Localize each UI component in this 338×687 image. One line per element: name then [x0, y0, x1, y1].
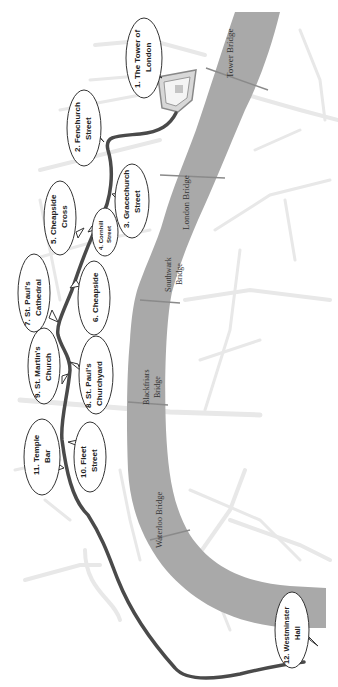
stop-1-bubble[interactable]: 1. The Tower of London	[126, 18, 162, 98]
stop-12-label-2: Hall	[293, 626, 302, 640]
bridge-label-waterloo: Waterloo Bridge	[154, 492, 164, 548]
stop-1-label-2: London	[144, 43, 153, 72]
stop-10-label-2: Street	[90, 449, 99, 472]
stop-4-label-2: Street	[106, 226, 112, 243]
stop-11-bubble[interactable]: 11. Temple Bar	[24, 419, 64, 495]
stop-5-label-2: Cross	[60, 205, 69, 228]
stop-9-label-1: 9. St. Martin's	[33, 346, 42, 398]
stop-7-label-1: 7. St. Paul's	[23, 281, 32, 326]
bridge-label-southwark-2: Bridge	[175, 263, 184, 285]
bridge-label-tower: Tower Bridge	[225, 28, 235, 78]
stop-6-bubble[interactable]: 6. Cheapside	[70, 261, 110, 335]
bridge-label-southwark-1: Southwark	[164, 257, 173, 292]
stop-3-label-1: 3. Gracechurch	[122, 170, 131, 228]
stop-9-label-2: Church	[44, 353, 53, 381]
bridge-label-blackfriars-2: Bridge	[153, 376, 162, 398]
stop-2-label-1: 2. Fenchurch	[73, 102, 82, 152]
stop-4-bubble[interactable]: 4. Cornhill Street	[88, 208, 118, 256]
stop-11-label-1: 11. Temple	[32, 434, 41, 475]
stop-11-label-2: Bar	[43, 450, 52, 463]
stop-1-label-1: 1. The Tower of	[133, 30, 142, 88]
stop-10-bubble[interactable]: 10. Fleet Street	[68, 422, 106, 492]
stop-3-label-2: Street	[133, 190, 142, 213]
stop-7-label-2: Cathedral	[34, 279, 43, 316]
route-map: Tower Bridge London Bridge Southwark Bri…	[0, 0, 338, 687]
stop-12-label-1: 12. Westminster	[282, 607, 291, 664]
bridge-label-blackfriars-1: Blackfriars	[142, 369, 151, 405]
stop-4-label-1: 4. Cornhill	[98, 220, 104, 250]
stop-9-bubble[interactable]: 9. St. Martin's Church	[28, 328, 68, 404]
stop-2-label-2: Street	[84, 117, 93, 140]
stop-5-label-1: 5. Cheapside	[49, 194, 58, 244]
stop-10-label-1: 10. Fleet	[79, 446, 88, 478]
stop-8-label-1: 8. St. Paul's	[84, 363, 93, 408]
bridge-label-london: London Bridge	[181, 175, 191, 230]
stop-8-label-2: Churchyard	[95, 361, 104, 406]
tower-of-london-icon	[158, 70, 196, 112]
stop-5-bubble[interactable]: 5. Cheapside Cross	[44, 181, 84, 255]
stop-6-label-1: 6. Cheapside	[91, 272, 100, 322]
